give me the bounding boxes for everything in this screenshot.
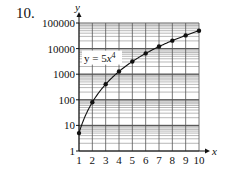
y-tick-label: 10000 [48,43,76,55]
x-tick-label: 5 [130,154,136,166]
data-point [183,33,187,37]
data-point [117,69,121,73]
data-point [157,44,161,48]
x-tick-label: 2 [90,154,96,166]
x-axis-label: x [211,145,217,157]
y-tick-label: 100000 [42,17,76,29]
x-tick-label: 9 [183,154,189,166]
data-point [103,82,107,86]
x-tick-label: 1 [76,154,82,166]
y-tick-label: 10 [64,119,76,131]
x-tick-label: 3 [103,154,109,166]
x-tick-label: 8 [170,154,176,166]
y-axis-label: y [74,1,80,13]
y-tick-label: 1 [70,145,76,157]
x-axis-arrow-icon [205,149,210,154]
data-point [143,51,147,55]
x-tick-label: 6 [143,154,149,166]
log-plot: yx11010010001000010000012345678910y = 5x… [0,0,225,175]
x-tick-label: 10 [194,154,206,166]
x-tick-label: 4 [116,154,122,166]
data-point [130,59,134,63]
data-point [197,29,201,33]
y-tick-label: 100 [59,94,76,106]
y-tick-label: 1000 [53,68,76,80]
equation-label: y = 5x4 [84,51,116,64]
data-point [77,131,81,135]
data-point [90,100,94,104]
data-point [170,38,174,42]
x-tick-label: 7 [156,154,162,166]
